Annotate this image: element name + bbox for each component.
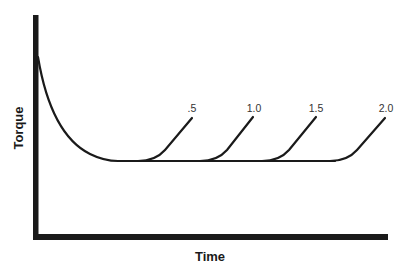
curve-1-5 xyxy=(262,117,316,161)
x-axis xyxy=(33,234,388,240)
y-axis-label: Torque xyxy=(11,106,26,149)
y-axis xyxy=(33,15,39,240)
series-label-1-5: 1.5 xyxy=(309,102,324,114)
torque-time-chart: Torque Time .5 1.0 1.5 2.0 xyxy=(0,0,406,274)
curve-1-0 xyxy=(200,117,253,161)
series-label-2-0: 2.0 xyxy=(379,102,394,114)
x-axis-label: Time xyxy=(195,249,225,264)
series-label-0-5: .5 xyxy=(188,102,197,114)
chart-plot-area xyxy=(0,0,406,274)
series-label-1-0: 1.0 xyxy=(247,102,262,114)
curve-0-5 xyxy=(138,118,192,161)
curve-2-0 xyxy=(330,118,385,161)
decay-curve xyxy=(38,57,335,161)
